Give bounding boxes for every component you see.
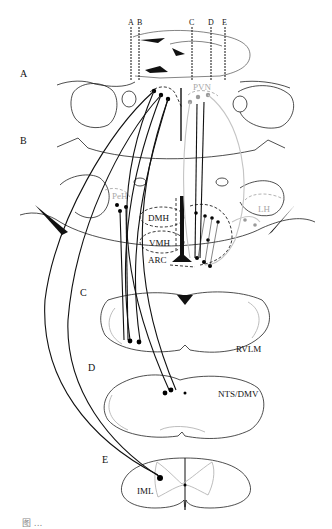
- section-label-b: B: [20, 135, 27, 146]
- cut-label-b: B: [137, 18, 142, 27]
- figure-caption-fragment: 图 ...: [22, 516, 42, 529]
- sagittal-inset: A B C D E: [128, 18, 250, 80]
- cut-label-c: C: [189, 18, 194, 27]
- nucleus-label-arc: ARC: [148, 255, 167, 265]
- cut-label-d: D: [208, 18, 214, 27]
- nucleus-label-lh: LH: [258, 204, 270, 214]
- nucleus-label-nts-dmv: NTS/DMV: [218, 389, 259, 399]
- nucleus-label-rvlm: RVLM: [236, 344, 261, 354]
- section-label-a: A: [20, 68, 28, 79]
- section-label-e: E: [102, 454, 108, 465]
- section-d: D NTS/DMV: [88, 362, 264, 438]
- projection-axons: [45, 89, 260, 481]
- cut-label-a: A: [128, 18, 134, 27]
- nucleus-label-iml: IML: [137, 486, 154, 496]
- cut-label-e: E: [222, 18, 227, 27]
- nucleus-label-dmh: DMH: [148, 213, 170, 223]
- section-c: C RVLM: [80, 287, 270, 354]
- section-label-d: D: [88, 362, 95, 373]
- nucleus-label-vmh: VMH: [149, 238, 171, 248]
- section-e: E IML: [102, 454, 251, 510]
- section-b: B PeH LH DMH VMH ARC: [20, 135, 315, 267]
- nucleus-label-pvn: PVN: [193, 82, 212, 92]
- section-a: A PVN: [20, 68, 294, 141]
- section-label-c: C: [80, 287, 87, 298]
